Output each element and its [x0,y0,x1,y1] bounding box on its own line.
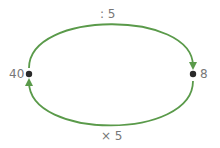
top-edge-label: : 5 [100,8,116,20]
left-node-label: 40 [9,68,24,80]
right-node-label: 8 [200,68,208,80]
bottom-edge-label: × 5 [101,130,123,142]
bottom-arrow-multiply [29,81,193,125]
cycle-diagram [0,0,220,148]
left-node-dot [26,71,32,77]
top-arrow-divide [29,24,193,68]
right-node-dot [190,71,196,77]
